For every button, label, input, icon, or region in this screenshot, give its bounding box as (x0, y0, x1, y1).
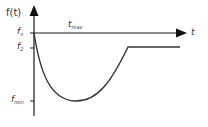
tick-label-f2: f2 (17, 42, 23, 52)
y-axis-arrow-icon (30, 5, 39, 16)
tick-label-fmin: fmin (11, 95, 24, 105)
tmax-sub: max (72, 24, 83, 30)
plot-canvas (0, 0, 208, 127)
tick-label-fn: fn (17, 27, 23, 37)
x-axis-arrow-icon (176, 29, 187, 38)
diagram-figure: f(t) t tmax fn f2 fmin (0, 0, 208, 127)
tmax-label: tmax (68, 20, 82, 30)
x-axis-label: t (191, 28, 195, 37)
y-axis-label: f(t) (6, 8, 21, 18)
tick-label-fmin-sub: min (14, 99, 23, 105)
response-curve (34, 33, 180, 101)
tick-label-f2-sub: 2 (20, 46, 23, 52)
tick-label-fn-sub: n (20, 31, 23, 37)
